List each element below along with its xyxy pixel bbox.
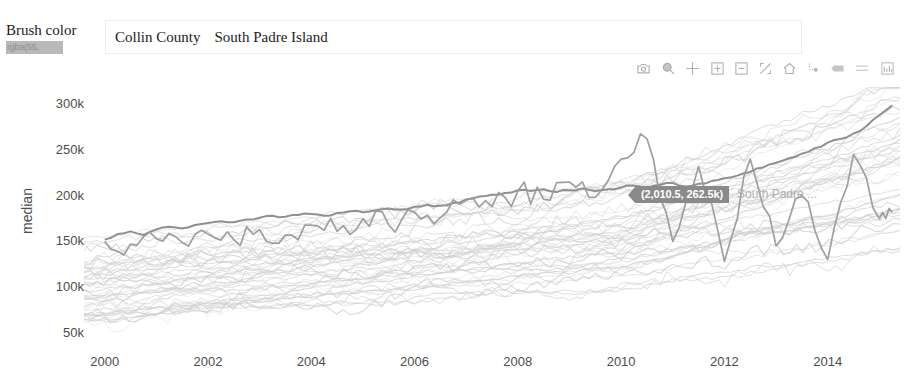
x-tick-label: 2002 xyxy=(193,354,222,369)
x-tick-label: 2012 xyxy=(710,354,739,369)
x-tick-label: 2010 xyxy=(607,354,636,369)
chart-canvas[interactable] xyxy=(0,62,906,382)
y-tick-label: 200k xyxy=(22,188,84,203)
y-axis: median 50k100k150k200k250k300k xyxy=(0,62,84,382)
hover-tooltip: (2,010.5, 262.5k) xyxy=(628,186,729,203)
brush-color-label: Brush color xyxy=(6,22,102,39)
y-tick-label: 150k xyxy=(22,233,84,248)
selected-series-south-padre-island[interactable]: South Padre Island xyxy=(214,29,327,46)
trace-annotation-label: South Padre ... xyxy=(737,186,817,203)
selected-series-collin-county[interactable]: Collin County xyxy=(115,29,200,46)
y-tick-label: 250k xyxy=(22,142,84,157)
x-tick-label: 2004 xyxy=(297,354,326,369)
y-tick-label: 300k xyxy=(22,96,84,111)
hover-tooltip-text: (2,010.5, 262.5k) xyxy=(635,186,729,203)
y-tick-label: 100k xyxy=(22,279,84,294)
selection-box[interactable]: Collin County South Padre Island xyxy=(105,20,802,54)
x-tick-label: 2000 xyxy=(90,354,119,369)
y-tick-label: 50k xyxy=(22,325,84,340)
chart-plot-area[interactable]: median 50k100k150k200k250k300k 200020022… xyxy=(0,62,906,382)
brush-color-widget[interactable]: Brush color rgba(55, xyxy=(6,22,102,54)
x-tick-label: 2006 xyxy=(400,354,429,369)
brush-color-swatch[interactable]: rgba(55, xyxy=(6,41,63,54)
x-tick-label: 2008 xyxy=(503,354,532,369)
hover-tooltip-arrow xyxy=(628,187,635,203)
x-axis: 20002002200420062008201020122014 xyxy=(0,342,906,372)
x-tick-label: 2014 xyxy=(813,354,842,369)
